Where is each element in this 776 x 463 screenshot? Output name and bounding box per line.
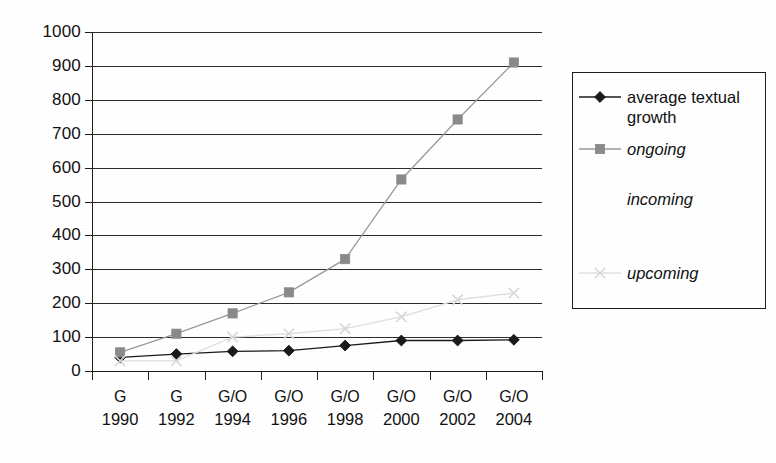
data-point-diamond	[283, 345, 294, 356]
y-tick-mark	[85, 235, 92, 236]
y-tick-label: 500	[52, 193, 81, 210]
data-point-square	[453, 115, 462, 124]
x-tick-mark	[92, 371, 93, 380]
y-tick-label: 200	[52, 294, 81, 311]
legend-label: ongoing	[625, 139, 686, 159]
x-tick-mark	[542, 371, 543, 380]
legend-label: incoming	[625, 189, 693, 209]
series-ongoing	[116, 58, 519, 357]
y-tick-mark	[85, 100, 92, 101]
y-tick-label: 900	[52, 57, 81, 74]
data-point-square	[116, 348, 125, 357]
data-point-diamond	[227, 346, 238, 357]
y-tick-label: 600	[52, 159, 81, 176]
x-tick-mark	[148, 371, 149, 380]
x-tick-mark	[317, 371, 318, 380]
data-point-square	[595, 144, 604, 153]
chart-legend: average textual growthongoingincomingupc…	[572, 72, 766, 309]
x-tick-mark	[430, 371, 431, 380]
legend-label: average textual growth	[625, 87, 761, 127]
x-tick-mark	[486, 371, 487, 380]
data-point-diamond	[452, 335, 463, 346]
data-point-square	[228, 309, 237, 318]
chart-figure: 01002003004005006007008009001000 G1990G1…	[0, 0, 776, 463]
legend-item-average-textual-growth[interactable]: average textual growth	[579, 87, 761, 127]
y-tick-label: 700	[52, 125, 81, 142]
x-marker	[579, 264, 625, 282]
data-point-square	[341, 255, 350, 264]
y-tick-label: 300	[52, 260, 81, 277]
y-tick-mark	[85, 337, 92, 338]
data-point-square	[284, 288, 293, 297]
x-tick-mark	[373, 371, 374, 380]
data-point-square	[172, 329, 181, 338]
legend-item-incoming[interactable]: incoming	[579, 189, 761, 209]
y-tick-mark	[85, 66, 92, 67]
data-point-diamond	[396, 335, 407, 346]
y-tick-mark	[85, 32, 92, 33]
square-marker	[579, 140, 625, 158]
y-tick-label: 100	[52, 328, 81, 345]
y-tick-mark	[85, 303, 92, 304]
y-tick-mark	[85, 134, 92, 135]
series-layer	[92, 32, 542, 371]
diamond-marker	[579, 88, 625, 106]
data-point-square	[509, 58, 518, 67]
x-tick-mark	[261, 371, 262, 380]
y-tick-mark	[85, 371, 92, 372]
x-tick-year: 2004	[479, 408, 549, 430]
x-tick-label: G/O2004	[479, 386, 549, 430]
x-tick-category: G/O	[479, 386, 549, 408]
series-line	[120, 63, 514, 353]
y-tick-label: 1000	[42, 23, 81, 40]
y-tick-label: 400	[52, 226, 81, 243]
legend-item-upcoming[interactable]: upcoming	[579, 263, 761, 283]
legend-label: upcoming	[625, 263, 699, 283]
y-tick-mark	[85, 202, 92, 203]
data-point-square	[397, 175, 406, 184]
no-marker	[579, 190, 625, 208]
data-point-diamond	[508, 334, 519, 345]
data-point-x	[396, 312, 406, 322]
legend-item-ongoing[interactable]: ongoing	[579, 139, 761, 159]
y-tick-label: 800	[52, 91, 81, 108]
y-tick-mark	[85, 168, 92, 169]
data-point-diamond	[595, 92, 606, 103]
data-point-diamond	[340, 340, 351, 351]
x-tick-mark	[205, 371, 206, 380]
y-tick-label: 0	[71, 362, 81, 379]
y-tick-mark	[85, 269, 92, 270]
